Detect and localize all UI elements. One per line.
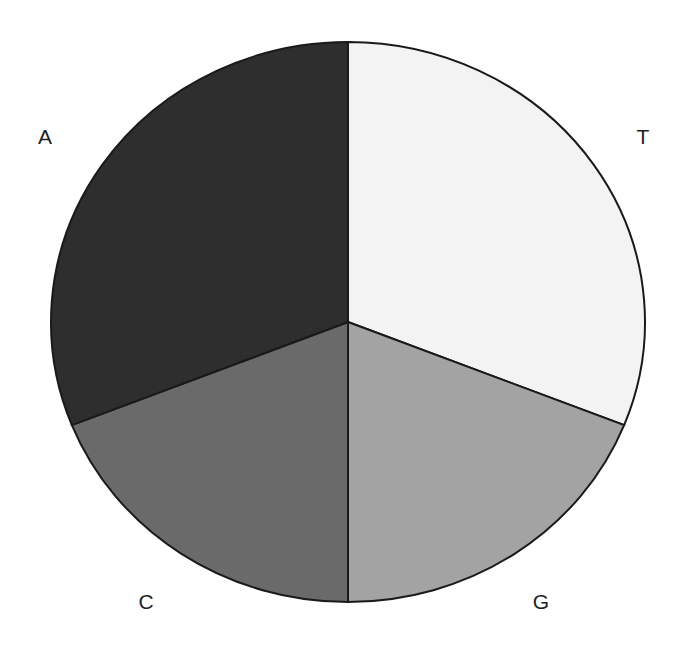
label-t: T (637, 125, 650, 148)
label-c: C (138, 590, 153, 613)
pie-chart: T G C A (0, 0, 687, 645)
label-g: G (533, 590, 549, 613)
label-a: A (38, 125, 52, 148)
pie-slices (51, 42, 645, 602)
